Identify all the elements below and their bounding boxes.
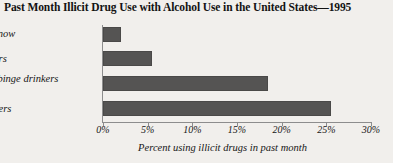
- x-axis-tick-label: 5%: [128, 124, 168, 135]
- bar-light-drinkers: [103, 51, 152, 66]
- y-axis-tick-label: Occasional binge drinkers: [0, 73, 97, 85]
- y-axis-tick-label: Light drinkers: [0, 53, 97, 65]
- y-axis-tick-label: Don't drink now: [0, 28, 97, 40]
- x-axis-tick-label: 25%: [306, 124, 346, 135]
- y-axis-tick-label: Heavy drinkers: [0, 103, 97, 115]
- chart-figure: Past Month Illicit Drug Use with Alcohol…: [0, 0, 393, 163]
- x-axis-tick-label: 0%: [83, 124, 123, 135]
- plot-area: [103, 25, 371, 122]
- x-axis-tick-label: 30%: [351, 124, 391, 135]
- bar-occasional-binge-drinkers: [103, 76, 268, 91]
- x-axis-tick-label: 20%: [262, 124, 302, 135]
- x-axis-tick-label: 15%: [217, 124, 257, 135]
- chart-title: Past Month Illicit Drug Use with Alcohol…: [4, 1, 390, 13]
- bar-heavy-drinkers: [103, 101, 331, 116]
- x-axis-tick-label: 10%: [172, 124, 212, 135]
- bar-dont-drink-now: [103, 27, 121, 42]
- x-axis-title: Percent using illicit drugs in past mont…: [0, 142, 393, 153]
